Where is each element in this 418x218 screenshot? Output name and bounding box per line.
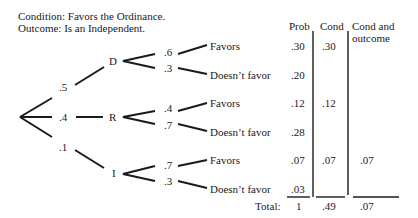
prob-i-favors: .7: [164, 159, 172, 171]
cell-prob-5: .07: [291, 154, 305, 166]
outcome-i-favors: Favors: [210, 154, 240, 166]
cell-cond-5: .07: [322, 154, 336, 166]
cell-prob-1: .30: [291, 40, 305, 52]
total-cond: .49: [322, 200, 336, 212]
condition-text: Condition: Favors the Ordinance.: [18, 10, 165, 22]
outcome-i-doesnt: Doesn’t favor: [210, 183, 271, 195]
cell-prob-3: .12: [291, 97, 305, 109]
outcome-d-doesnt: Doesn’t favor: [210, 69, 271, 81]
prob-r-favors: .4: [164, 102, 172, 114]
branch-root-i-2: [75, 150, 104, 168]
prob-d-doesnt: .3: [164, 62, 172, 74]
prob-i-doesnt: .3: [164, 175, 172, 187]
col-header-cond-and: Cond and: [352, 21, 394, 32]
prob-r-doesnt: .7: [164, 119, 172, 131]
branch-root-d-2: [75, 67, 104, 85]
col-header-cond: Cond: [320, 21, 344, 32]
prob-d: .5: [59, 81, 67, 93]
total-prob: 1: [296, 200, 302, 212]
cell-prob-2: .20: [291, 69, 305, 81]
node-i: I: [112, 167, 116, 179]
outcome-r-favors: Favors: [210, 97, 240, 109]
prob-i: .1: [59, 141, 67, 153]
outcome-text: Outcome: Is an Independent.: [18, 22, 145, 34]
node-d: D: [109, 55, 117, 67]
cell-prob-6: .03: [291, 183, 305, 195]
branch-root-d: [20, 98, 52, 117]
col-header-outcome: outcome: [352, 33, 390, 44]
branch-root-i: [20, 117, 52, 137]
col-header-prob: Prob: [289, 21, 310, 32]
total-cond-outcome: .07: [360, 200, 374, 212]
prob-r: .4: [59, 111, 67, 123]
node-r: R: [109, 111, 116, 123]
cell-prob-4: .28: [291, 126, 305, 138]
outcome-d-favors: Favors: [210, 40, 240, 52]
cell-cond-3: .12: [322, 97, 336, 109]
outcome-r-doesnt: Doesn’t favor: [210, 126, 271, 138]
cell-cond-1: .30: [322, 40, 336, 52]
total-label: Total:: [255, 200, 281, 212]
cell-cond-outcome-5: .07: [360, 154, 374, 166]
prob-d-favors: .6: [164, 46, 172, 58]
